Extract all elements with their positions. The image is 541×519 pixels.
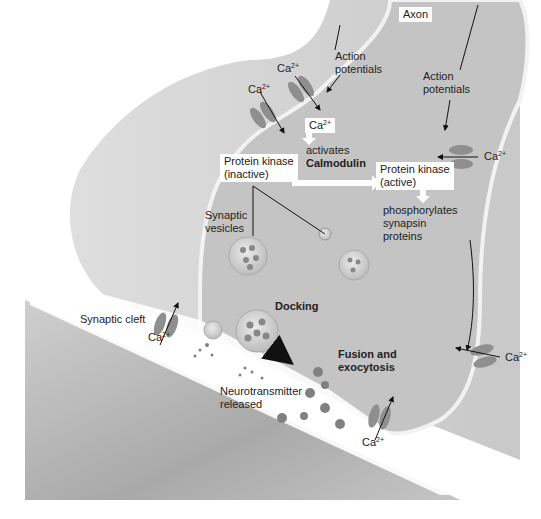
vesicle bbox=[229, 237, 267, 275]
ca-label: Ca2+ bbox=[505, 351, 527, 364]
vesicle bbox=[204, 321, 222, 339]
calmodulin-label: Calmodulin bbox=[306, 157, 366, 170]
ca-calmodulin-box: Ca2+ bbox=[305, 118, 335, 133]
protein-kinase-inactive-box: Protein kinase(inactive) bbox=[220, 154, 298, 182]
action-potentials-label-2: Action potentials bbox=[423, 70, 483, 96]
activates-label: activates bbox=[306, 144, 349, 157]
ca-label: Ca2+ bbox=[148, 331, 170, 344]
action-potentials-label-1: Action potentials bbox=[335, 50, 395, 76]
ca-label: Ca2+ bbox=[248, 83, 270, 96]
ca-label: Ca2+ bbox=[484, 150, 506, 163]
axon-label: Axon bbox=[399, 7, 432, 22]
docking-vesicle bbox=[236, 310, 278, 352]
synaptic-cleft-label: Synaptic cleft bbox=[80, 313, 145, 326]
neurotransmitter-released-label: Neurotransmitterreleased bbox=[220, 385, 302, 411]
docking-label: Docking bbox=[275, 300, 318, 313]
fusion-exocytosis-label: Fusion andexocytosis bbox=[338, 348, 397, 374]
protein-kinase-active-box: Protein kinase(active) bbox=[376, 162, 454, 190]
synaptic-vesicles-label: Synapticvesicles bbox=[205, 209, 247, 235]
vesicle bbox=[339, 250, 369, 280]
ca-label: Ca2+ bbox=[277, 62, 299, 75]
phosphorylates-label: phosphorylatessynapsinproteins bbox=[383, 204, 458, 243]
ca-label: Ca2+ bbox=[362, 436, 384, 449]
